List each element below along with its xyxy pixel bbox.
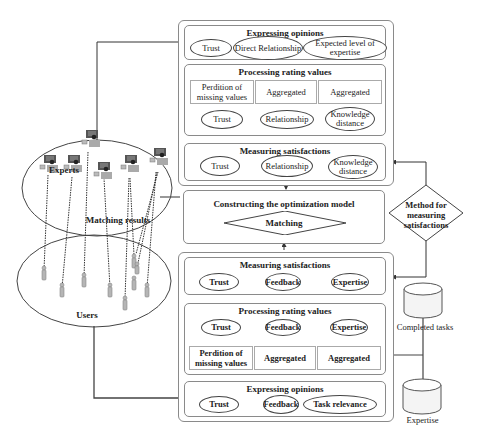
expert-to-expressing-connector: [97, 42, 184, 140]
user-icon: [132, 254, 136, 268]
expert-icon: [121, 155, 139, 172]
step-aggregated: Aggregated: [317, 346, 381, 370]
bottom-measuring-satisfactions: Measuring satisfactions Trust Feedback E…: [184, 257, 386, 295]
bottom-expressing-opinions: Expressing opinions Trust Feedback Task …: [184, 381, 386, 417]
section-title: Processing rating values: [185, 306, 385, 317]
user-icon: [60, 283, 64, 297]
expert-icon: [150, 148, 168, 165]
top-processing-rating-values: Processing rating values Perdition of mi…: [184, 64, 386, 136]
completed-tasks-database-icon: [404, 283, 442, 318]
measure-knowledge-distance: Knowledge distance: [328, 155, 378, 179]
step-aggregated: Aggregated: [254, 346, 316, 370]
output-relationship: Relationship: [260, 110, 314, 129]
top-expressing-opinions: Expressing opinions Trust Direct Relatio…: [184, 25, 386, 60]
expert-icon: [82, 130, 100, 147]
method-label: Method for measuring satisfactions: [392, 200, 460, 230]
measure-trust: Trust: [200, 156, 240, 176]
users-label: Users: [72, 310, 102, 320]
measure-relationship: Relationship: [261, 155, 313, 177]
output-trust: Trust: [201, 110, 243, 129]
expertise-database-icon: [403, 379, 441, 414]
experts-label: Experts: [44, 165, 84, 175]
bottom-panel: Measuring satisfactions Trust Feedback E…: [178, 252, 394, 422]
step-aggregated: Aggregated: [255, 80, 317, 104]
optimization-model: Constructing the optimization model Matc…: [183, 190, 385, 244]
opinion-feedback: Feedback: [263, 395, 299, 414]
user-icons: [42, 254, 149, 310]
opinion-expected-expertise: Expected level of expertise: [303, 36, 387, 60]
top-panel: Expressing opinions Trust Direct Relatio…: [178, 20, 394, 186]
step-perdition-missing-values: Perdition of missing values: [190, 80, 254, 104]
step-aggregated: Aggregated: [318, 80, 382, 104]
section-title: Expressing opinions: [185, 384, 385, 395]
step-perdition-missing-values: Perdition of missing values: [189, 346, 253, 370]
user-icon: [145, 283, 149, 297]
user-icon: [108, 283, 112, 297]
section-title: Constructing the optimization model: [184, 199, 384, 210]
section-title: Measuring satisfactions: [185, 260, 385, 271]
method-to-bottom-measuring-connector: [392, 241, 426, 277]
expertise-db-label: Expertise: [395, 415, 450, 425]
opinion-task-relevance: Task relevance: [303, 395, 377, 414]
measure-expertise: Expertise: [331, 273, 369, 291]
matching-decision-label: Matching: [184, 218, 384, 229]
measure-feedback: Feedback: [265, 273, 301, 291]
method-to-top-measuring-connector: [392, 162, 426, 185]
opinion-trust: Trust: [199, 396, 239, 413]
top-measuring-satisfactions: Measuring satisfactions Trust Relationsh…: [184, 143, 386, 181]
matching-results-label: Matching results: [68, 215, 168, 225]
user-icon: [123, 296, 127, 310]
opinion-direct-relationship: Direct Relationship: [233, 36, 303, 60]
user-icon: [82, 273, 86, 287]
opinion-trust: Trust: [190, 39, 232, 57]
output-feedback: Feedback: [265, 319, 301, 336]
user-icon: [132, 276, 136, 290]
user-icon: [135, 262, 139, 274]
users-to-expressing-connector: [94, 326, 184, 398]
output-knowledge-distance: Knowledge distance: [325, 107, 375, 131]
completed-tasks-label: Completed tasks: [390, 322, 460, 332]
section-title: Processing rating values: [185, 67, 385, 78]
bottom-processing-rating-values: Processing rating values Trust Feedback …: [184, 303, 386, 375]
user-icon: [42, 266, 46, 280]
output-expertise: Expertise: [330, 319, 368, 336]
measure-trust: Trust: [199, 273, 239, 291]
output-trust: Trust: [201, 319, 241, 336]
expert-icon: [94, 162, 112, 179]
